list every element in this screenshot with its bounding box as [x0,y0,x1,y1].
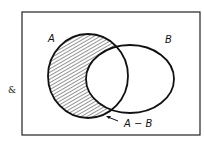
universe-symbol: & [8,85,16,95]
set-a-label: A [47,33,55,44]
set-b-label: B [165,34,172,45]
venn-diagram: A B & A − B [0,0,204,147]
annotation-a-minus-b: A − B [123,118,153,129]
